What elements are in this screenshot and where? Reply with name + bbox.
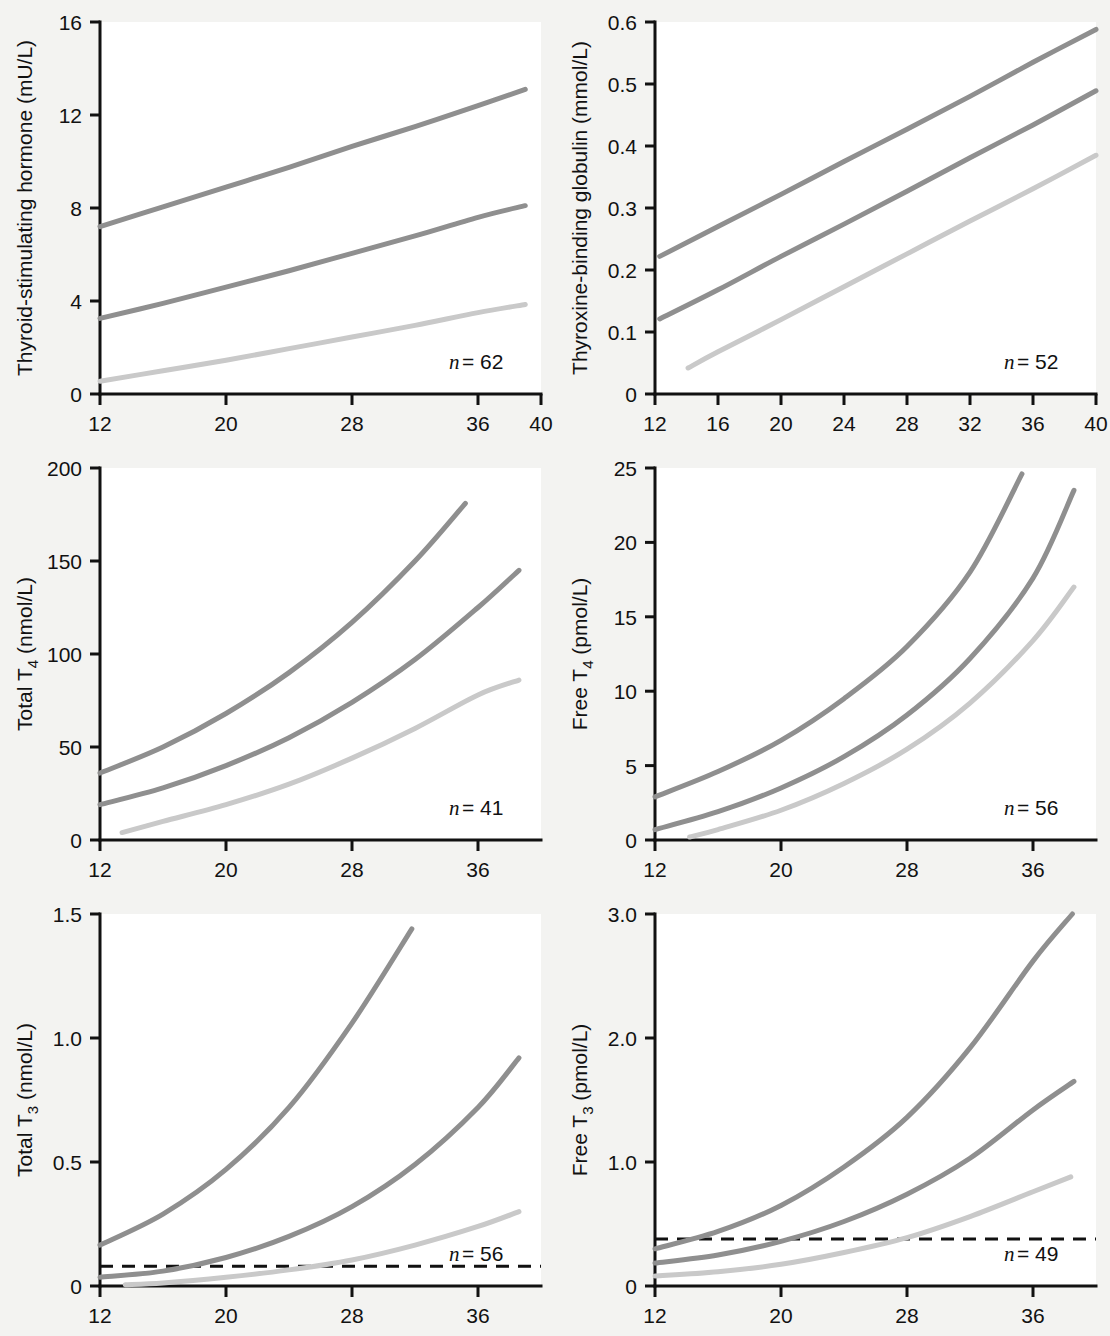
panel-a-chart: 04812161220283640n = 62Thyroid-stimulati… — [0, 0, 555, 446]
x-axis-tick-label: 28 — [895, 858, 918, 881]
sample-size-value: = 41 — [462, 796, 503, 819]
y-axis-tick-label: 2.0 — [608, 1027, 637, 1050]
x-axis-tick-label: 12 — [88, 1304, 111, 1327]
y-axis-title: Free T4 (pmol/L) — [568, 578, 596, 731]
sample-size-annotation: n = 52 — [1004, 350, 1058, 374]
y-axis-tick-label: 0.2 — [608, 259, 637, 282]
chart-svg-e: 00.51.01.512202836n = 56Total T3 (nmol/L… — [0, 892, 555, 1336]
x-axis-tick-label: 20 — [214, 412, 237, 435]
plot-area-background — [655, 468, 1096, 840]
y-axis-title: Total T4 (nmol/L) — [13, 577, 41, 731]
x-axis-tick-label: 40 — [529, 412, 552, 435]
chart-svg-c: 05010015020012202836n = 41Total T4 (nmol… — [0, 446, 555, 892]
sample-size-value: = 52 — [1017, 350, 1058, 373]
y-axis-tick-label: 1.5 — [53, 903, 82, 926]
x-axis-tick-label: 28 — [340, 858, 363, 881]
x-axis-tick-label: 16 — [706, 412, 729, 435]
y-axis-tick-label: 1.0 — [53, 1027, 82, 1050]
y-axis-tick-label: 0.5 — [53, 1151, 82, 1174]
x-axis-tick-label: 28 — [340, 412, 363, 435]
panel-e-chart: 00.51.01.512202836n = 56Total T3 (nmol/L… — [0, 892, 555, 1336]
x-axis-tick-label: 20 — [769, 412, 792, 435]
y-axis-title: Total T3 (nmol/L) — [13, 1023, 41, 1177]
y-axis-tick-label: 0.4 — [608, 135, 638, 158]
x-axis-tick-label: 32 — [958, 412, 981, 435]
y-axis-tick-label: 4 — [70, 290, 82, 313]
y-axis-tick-label: 0.6 — [608, 11, 637, 34]
y-axis-tick-label: 1.0 — [608, 1151, 637, 1174]
sample-size-value: = 56 — [1017, 796, 1058, 819]
x-axis-tick-label: 28 — [340, 1304, 363, 1327]
x-axis-tick-label: 12 — [643, 1304, 666, 1327]
x-axis-tick-label: 36 — [1021, 858, 1044, 881]
x-axis-tick-label: 36 — [1021, 1304, 1044, 1327]
y-axis-tick-label: 20 — [614, 531, 637, 554]
x-axis-tick-label: 36 — [466, 858, 489, 881]
y-axis-tick-label: 100 — [47, 643, 82, 666]
sample-size-symbol: n — [1004, 350, 1015, 374]
x-axis-tick-label: 24 — [832, 412, 856, 435]
y-axis-tick-label: 12 — [59, 104, 82, 127]
chart-svg-d: 051015202512202836n = 56Free T4 (pmol/L)… — [555, 446, 1110, 892]
y-axis-tick-label: 0.1 — [608, 321, 637, 344]
y-axis-tick-label: 200 — [47, 457, 82, 480]
x-axis-tick-label: 28 — [895, 412, 918, 435]
y-axis-tick-label: 0 — [625, 829, 637, 852]
x-axis-tick-label: 20 — [769, 858, 792, 881]
panel-c-chart: 05010015020012202836n = 41Total T4 (nmol… — [0, 446, 555, 892]
y-axis-tick-label: 0.5 — [608, 73, 637, 96]
y-axis-tick-label: 3.0 — [608, 903, 637, 926]
sample-size-symbol: n — [449, 1242, 460, 1266]
panel-b-chart: 00.10.20.30.40.50.61216202428323640n = 5… — [555, 0, 1110, 446]
sample-size-annotation: n = 56 — [1004, 796, 1058, 820]
sample-size-annotation: n = 49 — [1004, 1242, 1058, 1266]
y-axis-title: Thyroxine-binding globulin (mmol/L) — [568, 41, 591, 375]
x-axis-tick-label: 20 — [214, 1304, 237, 1327]
x-axis-tick-label: 12 — [88, 412, 111, 435]
y-axis-tick-label: 0 — [625, 1275, 637, 1298]
y-axis-tick-label: 16 — [59, 11, 82, 34]
sample-size-annotation: n = 41 — [449, 796, 503, 820]
x-axis-tick-label: 36 — [466, 412, 489, 435]
x-axis-tick-label: 12 — [643, 858, 666, 881]
plot-area-background — [100, 914, 541, 1286]
y-axis-tick-label: 0 — [625, 383, 637, 406]
x-axis-tick-label: 12 — [643, 412, 666, 435]
y-axis-tick-label: 50 — [59, 736, 82, 759]
panel-d-chart: 051015202512202836n = 56Free T4 (pmol/L)… — [555, 446, 1110, 892]
x-axis-tick-label: 36 — [1021, 412, 1044, 435]
sample-size-value: = 56 — [462, 1242, 503, 1265]
y-axis-tick-label: 15 — [614, 606, 637, 629]
sample-size-symbol: n — [1004, 796, 1015, 820]
sample-size-annotation: n = 56 — [449, 1242, 503, 1266]
y-axis-tick-label: 5 — [625, 755, 637, 778]
y-axis-title: Free T3 (pmol/L) — [568, 1024, 596, 1177]
x-axis-tick-label: 40 — [1084, 412, 1107, 435]
sample-size-value: = 62 — [462, 350, 503, 373]
y-axis-tick-label: 8 — [70, 197, 82, 220]
x-axis-tick-label: 20 — [769, 1304, 792, 1327]
x-axis-tick-label: 20 — [214, 858, 237, 881]
y-axis-tick-label: 10 — [614, 680, 637, 703]
sample-size-annotation: n = 62 — [449, 350, 503, 374]
chart-svg-f: 01.02.03.012202836n = 49Free T3 (pmol/L)… — [555, 892, 1110, 1336]
x-axis-tick-label: 36 — [466, 1304, 489, 1327]
y-axis-tick-label: 0 — [70, 829, 82, 852]
plot-area-background — [100, 468, 541, 840]
sample-size-symbol: n — [449, 350, 460, 374]
sample-size-symbol: n — [1004, 1242, 1015, 1266]
sample-size-symbol: n — [449, 796, 460, 820]
thyroid-function-reference-figure: 04812161220283640n = 62Thyroid-stimulati… — [0, 0, 1110, 1336]
sample-size-value: = 49 — [1017, 1242, 1058, 1265]
y-axis-tick-label: 0.3 — [608, 197, 637, 220]
chart-svg-b: 00.10.20.30.40.50.61216202428323640n = 5… — [555, 0, 1110, 446]
chart-svg-a: 04812161220283640n = 62Thyroid-stimulati… — [0, 0, 555, 446]
panel-f-chart: 01.02.03.012202836n = 49Free T3 (pmol/L)… — [555, 892, 1110, 1336]
x-axis-tick-label: 28 — [895, 1304, 918, 1327]
y-axis-tick-label: 0 — [70, 383, 82, 406]
y-axis-tick-label: 25 — [614, 457, 637, 480]
y-axis-tick-label: 150 — [47, 550, 82, 573]
y-axis-title: Thyroid-stimulating hormone (mU/L) — [13, 40, 36, 376]
x-axis-tick-label: 12 — [88, 858, 111, 881]
y-axis-tick-label: 0 — [70, 1275, 82, 1298]
